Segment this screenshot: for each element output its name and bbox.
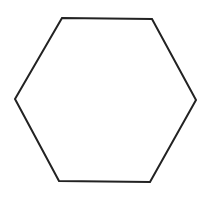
- hexagon-outline: [15, 18, 196, 182]
- diagram-canvas: [0, 0, 198, 199]
- hexagon-figure: [0, 0, 198, 199]
